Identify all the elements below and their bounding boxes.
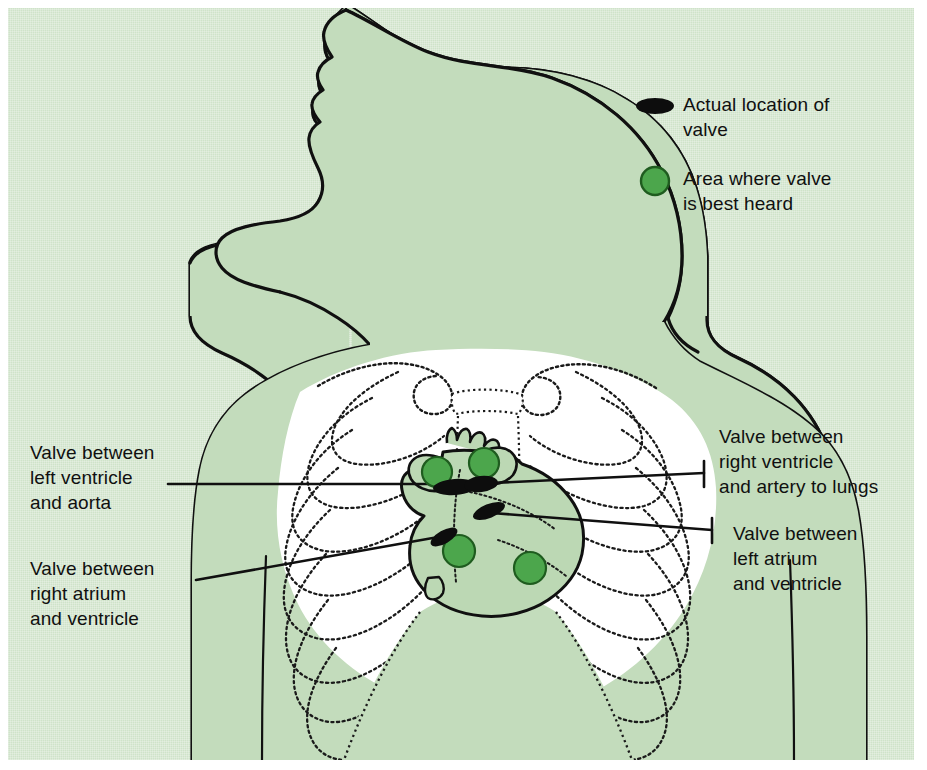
label-tricuspid-valve: Valve between right atrium and ventricle (30, 556, 155, 631)
legend-green-circle-icon (641, 167, 669, 195)
label-aortic-valve: Valve between left ventricle and aorta (30, 440, 155, 515)
auscultation-area-mitral (514, 552, 546, 584)
legend-label-auscultation-area: Area where valve is best heard (683, 166, 831, 216)
figure-root: Actual location of valve Area where valv… (0, 0, 927, 770)
label-mitral-valve: Valve between left atrium and ventricle (733, 521, 858, 596)
label-pulmonic-valve: Valve between right ventricle and artery… (719, 424, 878, 499)
auscultation-area-pulmonic (469, 448, 499, 478)
legend-label-actual-location: Actual location of valve (683, 92, 830, 142)
legend-black-ellipse-icon (636, 98, 674, 114)
